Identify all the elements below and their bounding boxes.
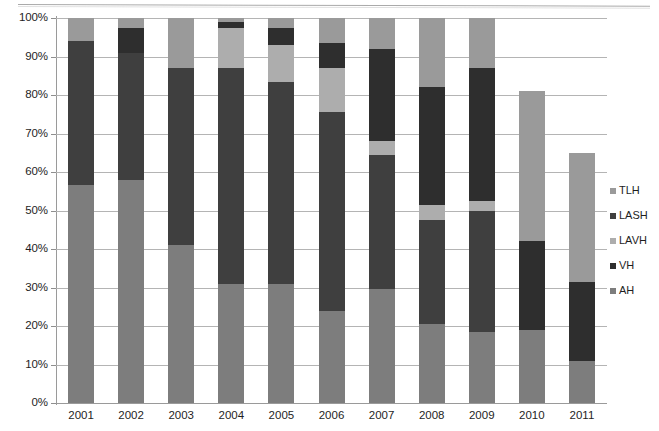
legend-label-VH: VH	[619, 260, 634, 271]
bar-segment-2011-AH[interactable]	[569, 361, 595, 403]
bar-segment-2003-LASH[interactable]	[168, 68, 194, 245]
bar-segment-2009-LAVH[interactable]	[469, 201, 495, 211]
legend-item-VH[interactable]: VH	[610, 253, 658, 278]
bar-segment-2003-TLH[interactable]	[168, 18, 194, 68]
bar-segment-2008-TLH[interactable]	[419, 18, 445, 87]
bar-segment-2008-AH[interactable]	[419, 324, 445, 403]
y-axis-tick-label: 100%	[2, 12, 48, 24]
legend-swatch-icon-LASH	[610, 213, 616, 219]
legend-label-TLH: TLH	[619, 185, 640, 196]
bar-segment-2008-VH[interactable]	[419, 87, 445, 204]
bar-2007[interactable]	[369, 18, 395, 403]
chart-legend: TLHLASHLAVHVHAH	[610, 178, 658, 303]
legend-swatch-icon-TLH	[610, 188, 616, 194]
bar-2005[interactable]	[268, 18, 294, 403]
bar-segment-2002-TLH[interactable]	[118, 18, 144, 28]
y-axis-tick-label: 50%	[2, 205, 48, 217]
bar-segment-2005-TLH[interactable]	[268, 18, 294, 28]
bar-segment-2005-LASH[interactable]	[268, 82, 294, 284]
bar-segment-2002-VH[interactable]	[118, 28, 144, 53]
bar-segment-2005-VH[interactable]	[268, 28, 294, 45]
bar-segment-2011-VH[interactable]	[569, 282, 595, 361]
bar-2010[interactable]	[519, 18, 545, 403]
bar-segment-2007-VH[interactable]	[369, 49, 395, 141]
bar-segment-2011-TLH[interactable]	[569, 153, 595, 282]
gridline-0%	[56, 403, 607, 404]
legend-swatch-icon-VH	[610, 263, 616, 269]
bar-segment-2004-LASH[interactable]	[218, 68, 244, 284]
bar-segment-2002-AH[interactable]	[118, 180, 144, 403]
legend-item-LAVH[interactable]: LAVH	[610, 228, 658, 253]
bar-segment-2004-TLH[interactable]	[218, 18, 244, 22]
bar-segment-2004-LAVH[interactable]	[218, 28, 244, 68]
legend-label-LASH: LASH	[619, 210, 648, 221]
plot-area	[56, 18, 607, 403]
stacked-bar-chart: 0%10%20%30%40%50%60%70%80%90%100% 200120…	[0, 0, 659, 431]
legend-item-TLH[interactable]: TLH	[610, 178, 658, 203]
legend-swatch-icon-LAVH	[610, 238, 616, 244]
bar-segment-2001-TLH[interactable]	[68, 18, 94, 41]
bar-segment-2009-LASH[interactable]	[469, 211, 495, 332]
legend-label-LAVH: LAVH	[619, 235, 647, 246]
bar-segment-2009-TLH[interactable]	[469, 18, 495, 68]
bar-segment-2005-AH[interactable]	[268, 284, 294, 403]
bar-segment-2002-LASH[interactable]	[118, 53, 144, 180]
bar-segment-2005-LAVH[interactable]	[268, 45, 294, 82]
bar-segment-2006-LAVH[interactable]	[319, 68, 345, 112]
x-axis-label-2011: 2011	[552, 409, 612, 421]
bar-segment-2007-LASH[interactable]	[369, 155, 395, 290]
y-axis-tick-label: 10%	[2, 359, 48, 371]
legend-item-LASH[interactable]: LASH	[610, 203, 658, 228]
bar-segment-2006-AH[interactable]	[319, 311, 345, 403]
y-axis-tick-label: 90%	[2, 51, 48, 63]
bar-segment-2008-LAVH[interactable]	[419, 205, 445, 220]
legend-item-AH[interactable]: AH	[610, 278, 658, 303]
bar-segment-2007-TLH[interactable]	[369, 18, 395, 49]
bar-2008[interactable]	[419, 18, 445, 403]
bar-segment-2001-LASH[interactable]	[68, 41, 94, 185]
y-axis-tick-label: 0%	[2, 397, 48, 409]
bar-2003[interactable]	[168, 18, 194, 403]
bar-segment-2003-AH[interactable]	[168, 245, 194, 403]
bar-segment-2010-TLH[interactable]	[519, 91, 545, 241]
bar-segment-2004-VH[interactable]	[218, 22, 244, 28]
bar-2006[interactable]	[319, 18, 345, 403]
bar-segment-2006-LASH[interactable]	[319, 112, 345, 310]
bar-2009[interactable]	[469, 18, 495, 403]
bar-segment-2007-LAVH[interactable]	[369, 141, 395, 154]
bar-segment-2008-LASH[interactable]	[419, 220, 445, 324]
y-axis-tick-label: 40%	[2, 243, 48, 255]
bar-2004[interactable]	[218, 18, 244, 403]
bar-segment-2001-AH[interactable]	[68, 185, 94, 403]
y-axis-tick-label: 80%	[2, 89, 48, 101]
y-axis-tick-label: 30%	[2, 282, 48, 294]
y-axis-tick-label: 70%	[2, 128, 48, 140]
bar-segment-2004-AH[interactable]	[218, 284, 244, 403]
bar-segment-2010-VH[interactable]	[519, 241, 545, 330]
bar-segment-2009-VH[interactable]	[469, 68, 495, 201]
bar-segment-2007-AH[interactable]	[369, 289, 395, 403]
y-axis-tick-label: 20%	[2, 320, 48, 332]
bar-segment-2006-TLH[interactable]	[319, 18, 345, 43]
bar-segment-2009-AH[interactable]	[469, 332, 495, 403]
legend-swatch-icon-AH	[610, 288, 616, 294]
bar-2002[interactable]	[118, 18, 144, 403]
bar-segment-2006-VH[interactable]	[319, 43, 345, 68]
bar-segment-2010-AH[interactable]	[519, 330, 545, 403]
legend-label-AH: AH	[619, 285, 634, 296]
bar-2011[interactable]	[569, 18, 595, 403]
y-axis-tick-label: 60%	[2, 166, 48, 178]
bar-2001[interactable]	[68, 18, 94, 403]
